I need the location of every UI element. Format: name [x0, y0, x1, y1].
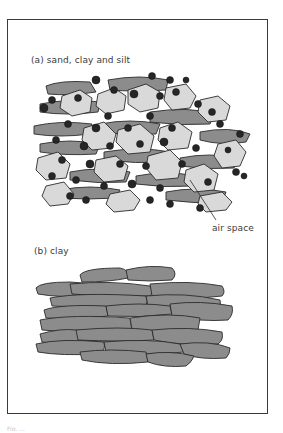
figure-caption: Fig. ...: [7, 425, 177, 431]
panel-a-mixed-soil: [34, 73, 250, 221]
soil-illustration: .sand { fill: #d9d9d9; stroke: #2b2b2b; …: [0, 0, 283, 433]
panel-b-clay: [36, 266, 233, 366]
